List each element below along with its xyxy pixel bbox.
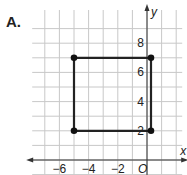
vertex-point [148,55,155,62]
y-axis-arrow-up [145,4,150,11]
coordinate-plane: A. −6−4−22468 x y O [0,0,187,175]
grid [32,10,182,175]
y-axis-label: y [150,5,158,19]
vertex-point [71,128,78,135]
y-tick-label: 6 [137,65,144,79]
y-tick-label: 8 [137,36,144,50]
vertex-point [71,55,78,62]
x-axis-label: x [179,144,187,158]
x-tick-label: −6 [53,162,67,175]
x-tick-label: −2 [111,162,125,175]
vertex-point [148,128,155,135]
y-tick-label: 4 [137,95,144,109]
origin-label: O [138,162,147,175]
x-tick-label: −4 [82,162,96,175]
x-axis-arrow-right [181,158,187,163]
x-axis-arrow-left [26,158,33,163]
axes [26,4,187,175]
problem-label: A. [6,13,21,30]
